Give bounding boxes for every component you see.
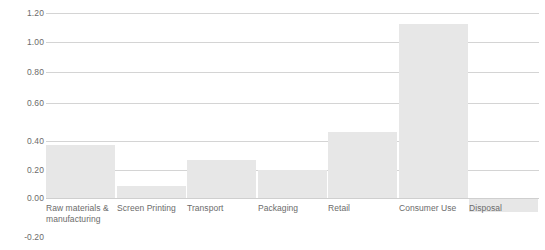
y-tick-label: 0.20 bbox=[4, 165, 44, 175]
bar-consumer-use[interactable] bbox=[399, 24, 468, 198]
y-tick-label: 1.00 bbox=[4, 37, 44, 47]
y-tick-label: 0.80 bbox=[4, 67, 44, 77]
plot-area: Raw materials & manufacturing Screen Pri… bbox=[46, 0, 539, 250]
bar-packaging[interactable] bbox=[258, 170, 327, 198]
y-axis: 1.20 1.00 0.80 0.60 0.40 0.20 0.00 -0.20 bbox=[0, 0, 44, 250]
x-tick-label-screen-printing: Screen Printing bbox=[117, 203, 185, 214]
y-tick-label: 0.00 bbox=[4, 193, 44, 203]
bar-retail[interactable] bbox=[328, 132, 397, 198]
x-tick-label-packaging: Packaging bbox=[258, 203, 326, 214]
x-tick-label-retail: Retail bbox=[328, 203, 396, 214]
gridline-zero bbox=[46, 198, 539, 199]
bar-transport[interactable] bbox=[187, 160, 256, 198]
gridline-1-20 bbox=[46, 13, 539, 14]
y-tick-label: 0.40 bbox=[4, 136, 44, 146]
bar-screen-printing[interactable] bbox=[117, 186, 186, 198]
x-tick-label-consumer-use: Consumer Use bbox=[399, 203, 467, 214]
x-tick-label-disposal: Disposal bbox=[469, 203, 537, 214]
bar-chart: 1.20 1.00 0.80 0.60 0.40 0.20 0.00 -0.20… bbox=[0, 0, 545, 250]
x-tick-label-raw-materials-manufacturing: Raw materials & manufacturing bbox=[46, 203, 114, 225]
y-tick-label: 1.20 bbox=[4, 8, 44, 18]
x-tick-label-transport: Transport bbox=[187, 203, 255, 214]
bar-raw-materials-manufacturing[interactable] bbox=[46, 145, 115, 198]
y-tick-label: 0.60 bbox=[4, 98, 44, 108]
y-tick-label: -0.20 bbox=[4, 232, 44, 242]
